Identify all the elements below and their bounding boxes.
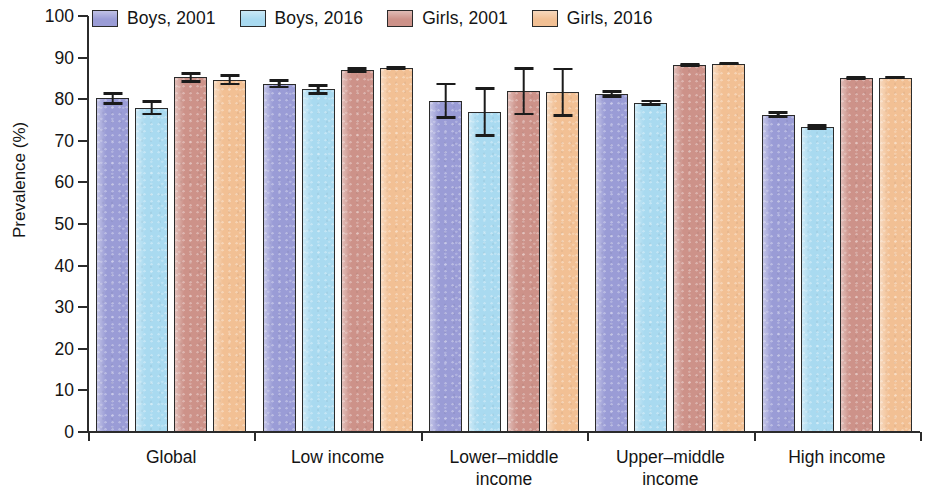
error-bar-cap-bottom xyxy=(602,95,621,98)
x-axis-group-label: Upper–middle income xyxy=(575,446,765,486)
error-bar xyxy=(879,76,912,79)
bar-slot xyxy=(801,16,834,432)
y-axis-tick xyxy=(78,98,88,100)
bar-slot xyxy=(840,16,873,432)
bar[interactable] xyxy=(263,84,296,432)
error-bar-cap-bottom xyxy=(847,77,866,80)
error-bar-cap-bottom xyxy=(680,64,699,67)
error-bar-cap-bottom xyxy=(641,103,660,106)
x-axis-group-label: Global xyxy=(76,446,266,468)
error-bar-cap-top xyxy=(270,79,289,82)
x-axis-tick xyxy=(254,432,256,441)
bar[interactable] xyxy=(762,115,795,432)
bar[interactable] xyxy=(673,65,706,432)
bar[interactable] xyxy=(213,80,246,432)
error-bar xyxy=(840,76,873,80)
x-axis-group-label: High income xyxy=(742,446,932,468)
bar[interactable] xyxy=(879,78,912,432)
error-bar-cap-bottom xyxy=(886,76,905,79)
error-bar-cap-top xyxy=(220,74,239,77)
error-bar xyxy=(302,84,335,95)
bar-slot xyxy=(135,16,168,432)
y-axis-tick xyxy=(78,265,88,267)
bar[interactable] xyxy=(840,78,873,432)
error-bar-cap-bottom xyxy=(808,127,827,130)
bar[interactable] xyxy=(546,92,579,432)
error-bar xyxy=(263,79,296,88)
bar-slot xyxy=(341,16,374,432)
error-bar-cap-bottom xyxy=(475,134,494,137)
y-axis-label: Prevalence (%) xyxy=(10,122,30,238)
y-axis-tick xyxy=(78,57,88,59)
error-bar-cap-top xyxy=(475,87,494,90)
y-axis-tick xyxy=(78,181,88,183)
bar[interactable] xyxy=(468,112,501,432)
bar[interactable] xyxy=(96,98,129,432)
error-bar-cap-bottom xyxy=(387,68,406,71)
error-bar-cap-bottom xyxy=(436,116,455,119)
error-bar xyxy=(634,100,667,107)
error-bar-cap-bottom xyxy=(553,114,572,117)
y-axis-tick-label: 50 xyxy=(55,214,74,235)
x-axis-tick xyxy=(88,432,90,441)
y-axis-tick-label: 60 xyxy=(55,172,74,193)
y-axis-tick xyxy=(78,140,88,142)
y-axis-tick xyxy=(78,223,88,225)
error-bar-cap-top xyxy=(181,72,200,75)
bar[interactable] xyxy=(135,108,168,432)
bar-groups xyxy=(88,16,920,432)
bar-slot xyxy=(213,16,246,432)
error-bar-cap-top xyxy=(103,92,122,95)
y-axis-tick-label: 90 xyxy=(55,47,74,68)
bar-slot xyxy=(712,16,745,432)
y-axis-tick-label: 10 xyxy=(55,380,74,401)
error-bar xyxy=(507,67,540,115)
y-axis-tick xyxy=(78,389,88,391)
error-bar-cap-top xyxy=(514,67,533,70)
error-bar xyxy=(595,90,628,97)
x-axis-tick xyxy=(587,432,589,441)
error-bar-cap-top xyxy=(142,100,161,103)
bar[interactable] xyxy=(429,101,462,432)
error-bar-cap-top xyxy=(436,83,455,86)
bar[interactable] xyxy=(507,91,540,432)
error-bar xyxy=(429,83,462,120)
error-bar-cap-bottom xyxy=(270,86,289,89)
bar[interactable] xyxy=(712,64,745,432)
y-axis-tick-label: 100 xyxy=(45,6,74,27)
error-bar-stem xyxy=(522,67,525,115)
error-bar-cap-bottom xyxy=(181,80,200,83)
bar-slot xyxy=(263,16,296,432)
y-axis-tick xyxy=(78,306,88,308)
bar-slot xyxy=(762,16,795,432)
bar[interactable] xyxy=(174,77,207,432)
y-axis-tick-label: 40 xyxy=(55,255,74,276)
error-bar-cap-top xyxy=(602,90,621,93)
error-bar-cap-bottom xyxy=(309,92,328,95)
bar[interactable] xyxy=(302,89,335,432)
error-bar xyxy=(213,74,246,86)
bar[interactable] xyxy=(634,103,667,432)
error-bar xyxy=(135,100,168,115)
error-bar-cap-bottom xyxy=(348,70,367,73)
bar-slot xyxy=(879,16,912,432)
error-bar xyxy=(712,62,745,65)
x-axis-tick xyxy=(421,432,423,441)
bar-slot xyxy=(302,16,335,432)
y-axis-tick-label: 30 xyxy=(55,297,74,318)
bar[interactable] xyxy=(801,127,834,432)
bar[interactable] xyxy=(341,70,374,432)
bar-slot xyxy=(507,16,540,432)
error-bar-cap-bottom xyxy=(769,115,788,118)
error-bar-cap-top xyxy=(309,84,328,87)
error-bar-stem xyxy=(444,83,447,120)
error-bar xyxy=(380,66,413,70)
error-bar xyxy=(801,124,834,130)
error-bar xyxy=(468,87,501,137)
error-bar-cap-bottom xyxy=(220,83,239,86)
y-axis-tick xyxy=(78,348,88,350)
bar[interactable] xyxy=(595,94,628,432)
x-axis-group-label: Lower–middle income xyxy=(409,446,599,486)
bar[interactable] xyxy=(380,68,413,432)
error-bar xyxy=(341,67,374,73)
